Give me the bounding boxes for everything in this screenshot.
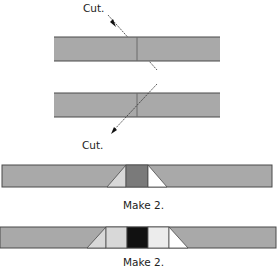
make-label-1: Make 2. bbox=[123, 199, 164, 211]
make-label-2: Make 2. bbox=[123, 256, 164, 268]
cut-label-bottom: Cut. bbox=[82, 139, 103, 151]
strip-1 bbox=[54, 37, 220, 61]
quilt-strip-diagram: Cut. Cut. Make 2. Make 2. bbox=[0, 0, 278, 269]
strip-4 bbox=[0, 227, 276, 248]
strip-3 bbox=[2, 165, 272, 187]
cut-label-top: Cut. bbox=[83, 2, 104, 14]
